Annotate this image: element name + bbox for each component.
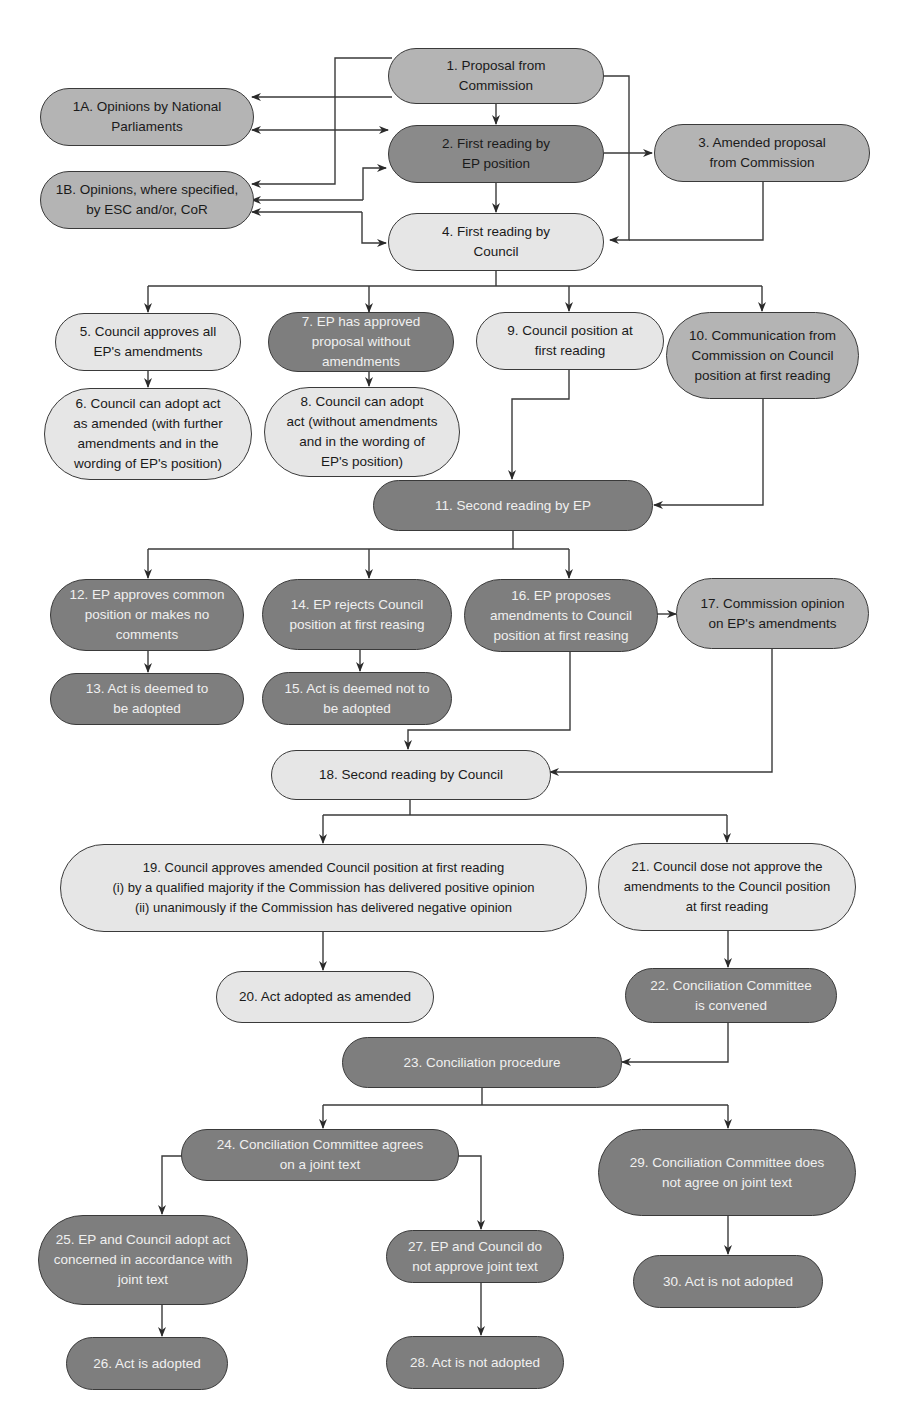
node-2-first-reading-ep: 2. First reading by EP position [388,125,604,183]
node-1b-esc-cor-opinions: 1B. Opinions, where specified, by ESC an… [40,171,254,229]
node-24-committee-agrees-joint-text: 24. Conciliation Committee agrees on a j… [181,1129,459,1181]
node-25-ep-council-adopt-act: 25. EP and Council adopt act concerned i… [38,1215,248,1305]
node-30-act-is-not-adopted: 30. Act is not adopted [633,1255,823,1308]
node-28-act-is-not-adopted: 28. Act is not adopted [386,1336,564,1389]
node-3-amended-proposal: 3. Amended proposal from Commission [654,124,870,182]
node-17-commission-opinion: 17. Commission opinion on EP's amendment… [676,578,869,649]
node-7-ep-approved-without-amendments: 7. EP has approved proposal without amen… [268,312,454,372]
node-27-ep-council-do-not-approve: 27. EP and Council do not approve joint … [386,1230,564,1283]
node-23-conciliation-procedure: 23. Conciliation procedure [342,1037,622,1088]
node-26-act-is-adopted: 26. Act is adopted [66,1337,228,1390]
node-8-council-adopt-without-amendments: 8. Council can adopt act (without amendm… [264,387,460,477]
node-15-act-deemed-not-adopted: 15. Act is deemed not to be adopted [262,672,452,725]
node-22-conciliation-committee-convened: 22. Conciliation Committee is convened [625,968,837,1023]
node-4-first-reading-council: 4. First reading by Council [388,213,604,271]
node-9-council-position-first-reading: 9. Council position at first reading [476,312,664,370]
node-16-ep-proposes-amendments: 16. EP proposes amendments to Council po… [464,579,658,652]
node-20-act-adopted-as-amended: 20. Act adopted as amended [216,971,434,1023]
node-1-proposal-from-commission: 1. Proposal from Commission [388,48,604,104]
node-13-act-deemed-adopted: 13. Act is deemed to be adopted [50,673,244,725]
node-11-second-reading-ep: 11. Second reading by EP [373,480,653,531]
node-29-committee-does-not-agree: 29. Conciliation Committee does not agre… [598,1129,856,1216]
node-6-council-adopt-amended: 6. Council can adopt act as amended (wit… [44,388,252,480]
node-19-council-approves-amended-position: 19. Council approves amended Council pos… [60,844,587,932]
node-10-communication-from-commission: 10. Communication from Commission on Cou… [666,312,859,399]
node-5-council-approves-amendments: 5. Council approves all EP's amendments [55,313,241,371]
node-1a-national-parliaments: 1A. Opinions by National Parliaments [40,88,254,146]
node-14-ep-rejects-council-position: 14. EP rejects Council position at first… [262,579,452,650]
node-12-ep-approves-common-position: 12. EP approves common position or makes… [50,579,244,651]
node-21-council-does-not-approve: 21. Council dose not approve the amendme… [598,843,856,931]
node-18-second-reading-council: 18. Second reading by Council [271,750,551,800]
